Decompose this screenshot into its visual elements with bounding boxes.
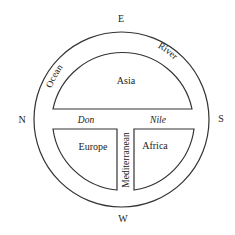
- europe-region: [53, 129, 117, 190]
- compass-south: S: [218, 113, 224, 124]
- compass-west: W: [118, 213, 128, 224]
- compass-east: E: [118, 13, 124, 24]
- compass-north: N: [18, 114, 25, 125]
- asia-label: Asia: [117, 75, 136, 86]
- ocean-label: Ocean: [44, 62, 65, 89]
- africa-region: [134, 129, 194, 190]
- mediterranean-label: Mediterranean: [121, 132, 131, 188]
- don-label: Don: [77, 115, 95, 125]
- africa-label: Africa: [142, 140, 168, 151]
- europe-label: Europe: [79, 141, 108, 152]
- nile-label: Nile: [149, 115, 166, 125]
- t-o-map: E N S W Ocean River Asia Europe Africa D…: [0, 0, 235, 235]
